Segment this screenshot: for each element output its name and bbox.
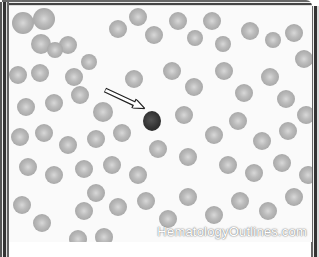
red-blood-cell xyxy=(71,86,89,104)
red-blood-cell xyxy=(69,230,87,242)
red-blood-cell xyxy=(235,84,253,102)
red-blood-cell xyxy=(125,70,143,88)
red-blood-cell xyxy=(297,106,312,124)
red-blood-cell xyxy=(203,12,221,30)
watermark-text: HematologyOutlines.com xyxy=(157,224,307,239)
red-blood-cell xyxy=(285,24,303,42)
red-blood-cell xyxy=(245,164,263,182)
red-blood-cell xyxy=(11,128,29,146)
red-blood-cell xyxy=(295,50,312,68)
red-blood-cell xyxy=(137,192,155,210)
red-blood-cell xyxy=(31,64,49,82)
red-blood-cell xyxy=(261,68,279,86)
red-blood-cell xyxy=(229,112,247,130)
red-blood-cell xyxy=(163,62,181,80)
red-blood-cell xyxy=(103,156,121,174)
red-blood-cell xyxy=(95,228,113,242)
red-blood-cell xyxy=(93,102,113,122)
image-frame: HematologyOutlines.com xyxy=(0,0,319,257)
red-blood-cell xyxy=(187,30,203,46)
red-blood-cell xyxy=(109,198,127,216)
red-blood-cell xyxy=(33,8,55,30)
red-blood-cell xyxy=(219,156,237,174)
red-blood-cell xyxy=(299,166,312,184)
red-blood-cell xyxy=(109,20,127,38)
red-blood-cell xyxy=(179,148,197,166)
red-blood-cell xyxy=(75,202,93,220)
red-blood-cell xyxy=(259,202,277,220)
red-blood-cell xyxy=(45,94,63,112)
red-blood-cell xyxy=(13,196,31,214)
red-blood-cell xyxy=(179,188,197,206)
red-blood-cell xyxy=(279,122,297,140)
red-blood-cell xyxy=(35,124,53,142)
red-blood-cell xyxy=(75,160,93,178)
red-blood-cell xyxy=(205,126,223,144)
red-blood-cell xyxy=(145,26,163,44)
red-blood-cell xyxy=(253,132,271,150)
red-blood-cell xyxy=(9,66,27,84)
red-blood-cell xyxy=(205,206,223,224)
red-blood-cell xyxy=(87,184,105,202)
red-blood-cell xyxy=(175,106,193,124)
red-blood-cell xyxy=(47,42,63,58)
red-blood-cell xyxy=(149,140,167,158)
red-blood-cell xyxy=(129,8,147,26)
frame-border-right xyxy=(311,6,319,257)
red-blood-cell xyxy=(59,136,77,154)
red-blood-cell xyxy=(265,32,281,48)
red-blood-cell xyxy=(87,130,105,148)
red-blood-cell xyxy=(241,22,259,40)
red-blood-cell xyxy=(19,158,37,176)
red-blood-cell xyxy=(185,78,203,96)
red-blood-cell xyxy=(215,36,231,52)
red-blood-cell xyxy=(215,62,233,80)
nucleated-cell xyxy=(143,111,161,131)
red-blood-cell xyxy=(113,124,131,142)
red-blood-cell xyxy=(17,98,35,116)
red-blood-cell xyxy=(45,166,63,184)
red-blood-cell xyxy=(169,12,187,30)
red-blood-cell xyxy=(81,54,97,70)
red-blood-cell xyxy=(273,154,291,172)
red-blood-cell xyxy=(231,192,249,210)
red-blood-cell xyxy=(285,188,303,206)
red-blood-cell xyxy=(65,68,83,86)
frame-border-left xyxy=(0,2,9,257)
red-blood-cell xyxy=(12,12,34,34)
red-blood-cell xyxy=(277,90,295,108)
red-blood-cell xyxy=(129,166,147,184)
micrograph xyxy=(9,6,312,242)
red-blood-cell xyxy=(33,214,51,232)
